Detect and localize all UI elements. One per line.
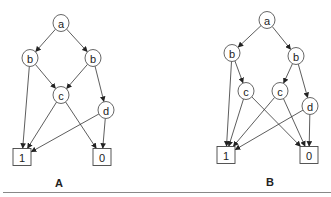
node-b-b1: b [224, 45, 240, 62]
node-label: b [90, 53, 96, 65]
node-label: 1 [223, 150, 229, 162]
node-label: 0 [306, 150, 312, 162]
node-a-one: 1 [13, 149, 31, 166]
edge-a-b1-to-c [35, 64, 55, 88]
node-a-c: c [53, 87, 69, 104]
edge-b-a-to-b2 [272, 26, 291, 49]
edge-a-b2-to-c [66, 64, 87, 88]
node-b-b2: b [288, 48, 304, 65]
edge-b-b2-to-c2 [283, 64, 292, 84]
edge-a-c-to-one [27, 102, 56, 148]
edge-a-b2-to-d [95, 66, 104, 102]
edge-b-d-to-one [235, 110, 303, 150]
node-b-c2: c [272, 83, 288, 100]
edge-a-d-to-zero [103, 118, 106, 148]
node-label: c [58, 90, 64, 102]
diagram-a-caption: A [55, 177, 63, 189]
diagram-b-caption: B [266, 176, 274, 188]
edge-a-a-to-b1 [35, 29, 55, 52]
nodes-layer: abbcd10abbccd10 [13, 12, 318, 166]
node-label: d [103, 105, 109, 117]
node-label: b [27, 53, 33, 65]
node-b-c1: c [238, 83, 254, 100]
node-a-d: d [98, 102, 114, 119]
edge-a-d-to-one [31, 114, 99, 152]
edge-b-c1-to-zero [252, 97, 301, 147]
node-label: 0 [99, 152, 105, 164]
edge-b-b2-to-d [298, 64, 307, 98]
edge-b-d-to-zero [309, 114, 310, 146]
edge-b-b1-to-one [227, 61, 232, 146]
edge-b-c1-to-one [229, 99, 244, 146]
node-b-d: d [302, 98, 318, 115]
node-label: c [277, 86, 283, 98]
edge-b-a-to-b1 [238, 26, 261, 48]
node-label: 1 [19, 152, 25, 164]
node-b-zero: 0 [300, 147, 318, 164]
edge-a-b1-to-one [23, 66, 30, 148]
node-label: c [243, 86, 249, 98]
node-label: b [229, 48, 235, 60]
captions-layer: A B [55, 176, 274, 189]
node-a-b1: b [22, 50, 38, 67]
node-label: d [307, 101, 313, 113]
node-a-b2: b [85, 50, 101, 67]
node-label: a [264, 15, 271, 27]
node-b-one: 1 [217, 147, 235, 164]
edge-b-b1-to-c1 [235, 61, 243, 83]
edge-a-a-to-b2 [67, 29, 88, 52]
node-label: a [58, 18, 65, 30]
diagram-canvas: abbcd10abbccd10 A B [0, 0, 331, 197]
edge-a-c-to-zero [66, 102, 97, 149]
node-label: b [293, 51, 299, 63]
node-a-zero: 0 [93, 149, 111, 166]
node-b-a: a [259, 12, 275, 29]
node-a-a: a [53, 15, 69, 32]
